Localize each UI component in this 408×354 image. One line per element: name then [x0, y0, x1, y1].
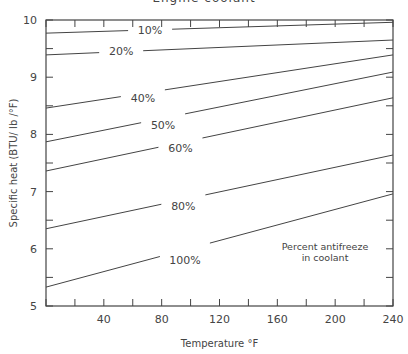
series-line-80pct: [205, 155, 393, 195]
series-line-40pct: [165, 55, 393, 90]
series-line-10pct: [172, 22, 393, 29]
series-line-80pct: [46, 204, 161, 229]
y-tick-label: 5: [30, 300, 37, 313]
y-axis-label: Specific heat (BTU/ lb /°F): [8, 98, 19, 227]
series-line-20pct: [46, 53, 99, 55]
x-tick-label: 120: [209, 313, 230, 326]
y-tick-label: 6: [30, 243, 37, 256]
y-tick-label: 9: [30, 71, 37, 84]
series-label: 50%: [151, 119, 175, 132]
series-line-60pct: [46, 147, 158, 171]
series-line-100pct: [46, 257, 160, 288]
y-tick-label: 8: [30, 128, 37, 141]
x-tick-label: 40: [97, 313, 111, 326]
annotation-line-2: in coolant: [302, 252, 349, 263]
series-label: 40%: [131, 92, 155, 105]
series-line-100pct: [210, 194, 393, 243]
series-label: 10%: [138, 24, 162, 37]
series-line-10pct: [46, 31, 128, 34]
series-line-20pct: [143, 40, 393, 51]
line-chart: 40801201602002405678910Temperature °FSpe…: [0, 0, 408, 354]
series-label: 20%: [109, 45, 133, 58]
series-line-40pct: [46, 97, 121, 108]
series-line-50pct: [46, 123, 141, 142]
series-label: 60%: [168, 142, 192, 155]
x-tick-label: 200: [325, 313, 346, 326]
x-tick-label: 240: [383, 313, 404, 326]
x-tick-label: 160: [267, 313, 288, 326]
y-tick-label: 7: [30, 186, 37, 199]
x-tick-label: 80: [155, 313, 169, 326]
annotation-line-1: Percent antifreeze: [282, 241, 369, 252]
x-axis-label: Temperature °F: [180, 338, 259, 349]
series-line-50pct: [185, 72, 393, 114]
series-label: 80%: [171, 200, 195, 213]
y-tick-label: 10: [23, 14, 37, 27]
series-label: 100%: [169, 254, 200, 267]
series-line-60pct: [202, 98, 393, 138]
